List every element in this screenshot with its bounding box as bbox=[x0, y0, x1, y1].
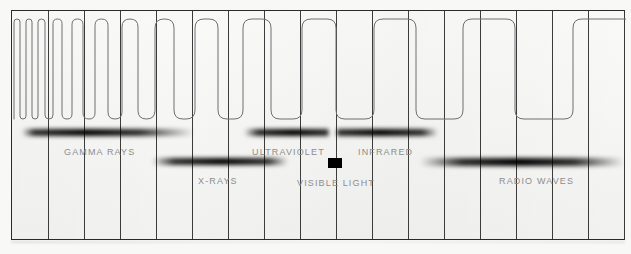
wave-trace-layer bbox=[12, 11, 626, 241]
spectrum-plot-frame: GAMMA RAYSX-RAYSULTRAVIOLETVISIBLE LIGHT… bbox=[11, 10, 625, 240]
band-label-visible-light: VISIBLE LIGHT bbox=[297, 178, 375, 189]
band-label-infrared: INFRARED bbox=[358, 147, 413, 158]
band-label-radio-waves: RADIO WAVES bbox=[499, 176, 574, 187]
electromagnetic-spectrum-figure: GAMMA RAYSX-RAYSULTRAVIOLETVISIBLE LIGHT… bbox=[0, 0, 631, 254]
band-label-x-rays: X-RAYS bbox=[198, 176, 238, 187]
band-bar-gamma-rays bbox=[22, 129, 194, 136]
band-bar-radio-waves bbox=[420, 158, 624, 166]
band-bar-ultraviolet bbox=[244, 129, 329, 136]
baseline-shadow bbox=[11, 241, 625, 243]
band-bar-visible-light bbox=[328, 158, 342, 168]
band-bar-x-rays bbox=[152, 158, 288, 165]
wave-trace-svg bbox=[12, 11, 626, 241]
band-bar-infrared bbox=[336, 129, 438, 136]
band-label-ultraviolet: ULTRAVIOLET bbox=[252, 147, 325, 158]
square-wave-path bbox=[14, 19, 626, 119]
band-label-gamma-rays: GAMMA RAYS bbox=[64, 147, 135, 158]
